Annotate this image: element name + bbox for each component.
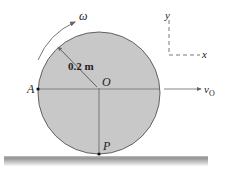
axis-x-label: x <box>202 49 207 60</box>
radius-label: 0.2 m <box>68 61 94 72</box>
center-o <box>98 88 100 90</box>
rolling-disk-diagram <box>0 0 229 171</box>
omega-label: ω <box>79 10 87 22</box>
center-label: O <box>102 76 111 88</box>
velocity-label: vO <box>204 84 215 98</box>
point-p-label: P <box>103 140 110 152</box>
point-a <box>36 87 39 90</box>
ground <box>4 157 208 167</box>
point-a-label: A <box>27 83 34 95</box>
point-p <box>97 152 100 155</box>
axis-y-label: y <box>165 10 170 21</box>
coordinate-axes <box>169 20 200 55</box>
